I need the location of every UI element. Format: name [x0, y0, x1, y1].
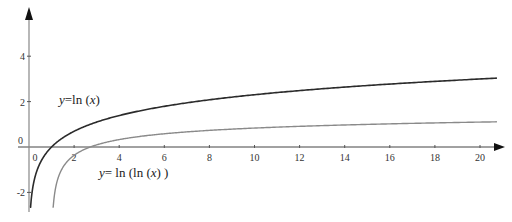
- x-tick-label: 18: [430, 152, 440, 163]
- x-tick-label: 12: [295, 152, 305, 163]
- y-axis-arrow-icon: [25, 7, 33, 20]
- curve-ln-x: [30, 78, 497, 207]
- curves: [30, 78, 497, 207]
- x-tick-label: 10: [250, 152, 260, 163]
- y-tick-label: 0: [18, 135, 23, 146]
- x-tick-label: 16: [385, 152, 395, 163]
- axes: [18, 7, 505, 212]
- y-tick-label: 2: [20, 97, 25, 108]
- y-tick-label: -2: [17, 187, 25, 198]
- chart: 02468101214161820 -2024 y=ln (x) y= ln (…: [0, 0, 512, 222]
- y-tick-label: 4: [20, 51, 25, 62]
- x-axis-arrow-icon: [494, 143, 505, 151]
- x-tick-label: 0: [33, 152, 38, 163]
- curve-label-ln-x: y=ln (x): [57, 92, 100, 107]
- x-tick-label: 20: [475, 152, 485, 163]
- x-ticks: 02468101214161820: [33, 145, 486, 163]
- x-tick-label: 4: [117, 152, 122, 163]
- x-tick-label: 8: [207, 152, 212, 163]
- x-tick-label: 6: [162, 152, 167, 163]
- curve-label-ln-ln-x: y= ln (ln (x) ): [97, 165, 168, 180]
- x-tick-label: 14: [340, 152, 350, 163]
